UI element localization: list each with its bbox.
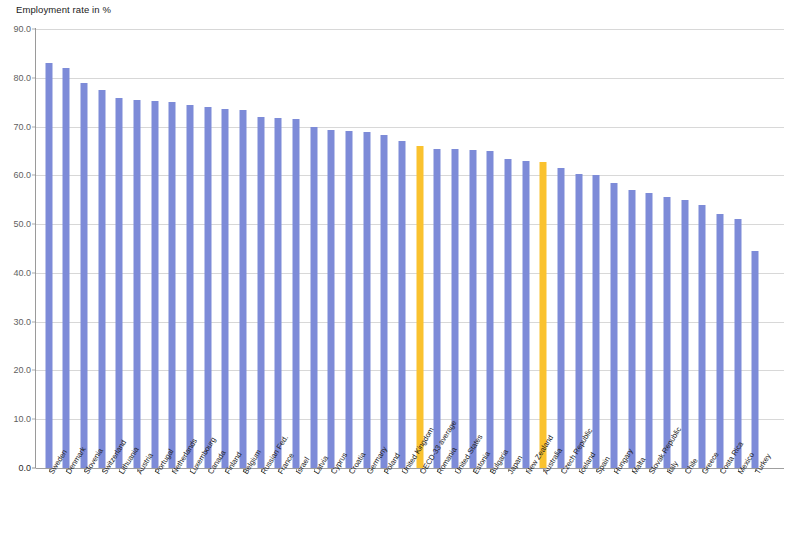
y-axis-tick-label: 0.0: [18, 463, 31, 473]
x-axis-label: United Kingdom: [400, 471, 408, 476]
bar[interactable]: [45, 63, 52, 468]
bar-slot: [711, 29, 729, 468]
bar[interactable]: [116, 98, 123, 468]
bar-slot: [252, 29, 270, 468]
x-axis-label: Costa Rica: [718, 471, 726, 476]
bar-slot: [322, 29, 340, 468]
x-axis-label: Poland: [382, 471, 390, 476]
bar-slot: [393, 29, 411, 468]
x-axis-label: Estonia: [471, 471, 479, 476]
bar-slot: [111, 29, 129, 468]
bar[interactable]: [504, 159, 511, 468]
bar-slot: [305, 29, 323, 468]
x-axis-label: Austria: [135, 471, 143, 476]
x-axis-label: Finland: [223, 471, 231, 476]
bar-slot: [93, 29, 111, 468]
bar[interactable]: [310, 127, 317, 468]
bar-slot: [605, 29, 623, 468]
bar[interactable]: [134, 100, 141, 468]
bar-slot: [375, 29, 393, 468]
y-axis-tick-label: 40.0: [13, 268, 31, 278]
x-axis-label: Japan: [506, 471, 514, 476]
bar-slot: [552, 29, 570, 468]
bar[interactable]: [257, 117, 264, 468]
bar-slot: [128, 29, 146, 468]
bar-slot: [658, 29, 676, 468]
bar-slot: [481, 29, 499, 468]
bar[interactable]: [557, 168, 564, 468]
bar-slot: [340, 29, 358, 468]
bar-slot: [676, 29, 694, 468]
bar[interactable]: [522, 161, 529, 468]
bar[interactable]: [381, 135, 388, 468]
y-axis-tick-label: 70.0: [13, 122, 31, 132]
x-axis-label: Iceland: [577, 471, 585, 476]
x-axis-label: Mexico: [736, 471, 744, 476]
bar-slot: [534, 29, 552, 468]
bar-highlighted[interactable]: [416, 146, 423, 468]
bar[interactable]: [222, 109, 229, 468]
bar-slot: [640, 29, 658, 468]
y-axis-tick-label: 20.0: [13, 365, 31, 375]
x-axis-label: France: [276, 471, 284, 476]
x-axis-label: OECD-33 average: [418, 471, 426, 476]
bar[interactable]: [169, 102, 176, 468]
bar-slot: [181, 29, 199, 468]
bar-slot: [75, 29, 93, 468]
plot-area: 0.010.020.030.040.050.060.070.080.090.0 …: [36, 29, 784, 468]
bar[interactable]: [575, 174, 582, 468]
bar[interactable]: [275, 118, 282, 468]
bar[interactable]: [204, 107, 211, 468]
bar-slot: [411, 29, 429, 468]
x-axis-label: Malta: [630, 471, 638, 476]
bar[interactable]: [292, 119, 299, 468]
bar-slot: [746, 29, 764, 468]
bar-slot: [693, 29, 711, 468]
x-axis-label: Sweden: [47, 471, 55, 476]
x-axis-label: Hungary: [612, 471, 620, 476]
bar[interactable]: [239, 110, 246, 468]
x-axis-label: Italy: [665, 471, 673, 476]
bar[interactable]: [363, 132, 370, 468]
bar[interactable]: [398, 141, 405, 468]
bar[interactable]: [434, 149, 441, 468]
bar-slot: [164, 29, 182, 468]
bar[interactable]: [187, 105, 194, 468]
bar[interactable]: [469, 150, 476, 468]
bar[interactable]: [345, 131, 352, 468]
bar-slot: [287, 29, 305, 468]
bar-highlighted[interactable]: [540, 162, 547, 468]
x-axis-label: Latvia: [312, 471, 320, 476]
x-axis-label: Slovak Republic: [647, 471, 655, 476]
x-axis-label: Slovenia: [82, 471, 90, 476]
bars-layer: [36, 29, 784, 468]
employment-rate-bar-chart: Employment rate in % 0.010.020.030.040.0…: [0, 0, 788, 533]
bar[interactable]: [752, 251, 759, 468]
bar[interactable]: [734, 219, 741, 468]
bar[interactable]: [699, 205, 706, 468]
x-axis-label: Germany: [365, 471, 373, 476]
y-axis-tick-label: 30.0: [13, 317, 31, 327]
x-axis-label: Netherlands: [170, 471, 178, 476]
y-axis-tick-label: 90.0: [13, 24, 31, 34]
bar[interactable]: [151, 101, 158, 468]
y-axis-tick-label: 10.0: [13, 414, 31, 424]
x-axis-label: Cyprus: [329, 471, 337, 476]
x-axis-label: Bulgaria: [488, 471, 496, 476]
bar[interactable]: [681, 200, 688, 468]
x-axis-label: Luxembourg: [188, 471, 196, 476]
bar[interactable]: [628, 190, 635, 468]
bar[interactable]: [487, 151, 494, 468]
x-axis-label: Switzerland: [100, 471, 108, 476]
bar[interactable]: [328, 130, 335, 468]
x-axis-label: Israel: [294, 471, 302, 476]
bar[interactable]: [663, 197, 670, 468]
bar[interactable]: [716, 214, 723, 468]
bar[interactable]: [593, 175, 600, 468]
bar[interactable]: [98, 90, 105, 468]
x-axis-label: New Zealand: [524, 471, 532, 476]
bar[interactable]: [646, 193, 653, 468]
bar[interactable]: [81, 83, 88, 468]
bar[interactable]: [610, 183, 617, 468]
bar[interactable]: [63, 68, 70, 468]
